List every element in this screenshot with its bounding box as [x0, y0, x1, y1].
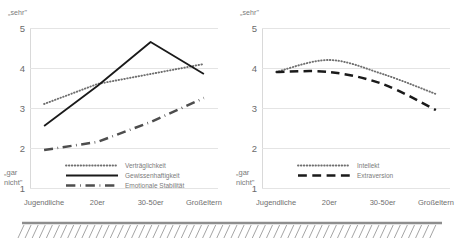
- y-axis-bottom-anchor-line1: „gar: [4, 168, 17, 177]
- hatch-tick: [46, 225, 52, 238]
- hatch-tick: [103, 225, 109, 238]
- y-axis-tick-label: 5: [20, 23, 25, 34]
- hatch-tick: [146, 225, 152, 238]
- hatch-tick: [82, 225, 88, 238]
- y-axis-tick-label: 3: [252, 103, 257, 114]
- hatch-tick: [238, 225, 244, 238]
- hatch-tick: [252, 225, 258, 238]
- legend-item[interactable]: Extraversion: [298, 171, 393, 180]
- hatch-tick: [68, 225, 74, 238]
- hatch-tick: [231, 225, 237, 238]
- x-axis-tick-label: Großeltern: [186, 198, 222, 207]
- x-axis-tick-label: 20er: [90, 198, 105, 207]
- hatch-tick: [409, 225, 415, 238]
- hatch-tick: [18, 225, 24, 238]
- hatch-tick: [259, 225, 265, 238]
- legend-swatch-dashdot-icon: [66, 181, 118, 190]
- x-axis-labels-right: Jugendliche20er30-50erGroßeltern: [262, 198, 450, 210]
- series-line: [44, 42, 204, 126]
- hatch-tick: [160, 225, 166, 238]
- hatch-tick: [423, 225, 429, 238]
- hatch-tick: [61, 225, 67, 238]
- y-axis-tick-label: 1: [20, 183, 25, 194]
- y-axis-tick-label: 4: [252, 63, 257, 74]
- hatch-tick: [110, 225, 116, 238]
- hatch-tick: [316, 225, 322, 238]
- series-line: [44, 64, 204, 104]
- y-axis-tick-label: 4: [20, 63, 25, 74]
- series-line: [276, 60, 436, 94]
- hatch-tick: [181, 225, 187, 238]
- hatch-tick: [373, 225, 379, 238]
- y-axis-tick-label: 1: [252, 183, 257, 194]
- y-axis-tick-label: 3: [20, 103, 25, 114]
- hatch-tick: [125, 225, 131, 238]
- hatch-tick: [89, 225, 95, 238]
- hatch-tick: [430, 225, 436, 238]
- chart-panel-left: „sehr" „gar nicht" 54321 Jugendliche20er…: [0, 0, 231, 249]
- hatch-tick: [96, 225, 102, 238]
- hatch-tick: [25, 225, 31, 238]
- legend-item[interactable]: Emotionale Stabilität: [66, 181, 184, 190]
- y-axis-top-anchor-label: „sehr": [8, 9, 27, 16]
- chart-panel-right: „sehr" „gar nicht" 54321 Jugendliche20er…: [232, 0, 463, 249]
- series-line: [276, 71, 436, 110]
- gridline: [262, 188, 450, 189]
- series-line: [44, 98, 204, 150]
- ground-hatch-decoration: [0, 216, 463, 249]
- x-axis-tick-label: Jugendliche: [256, 198, 296, 207]
- hatch-tick: [394, 225, 400, 238]
- hatch-tick: [387, 225, 393, 238]
- legend-swatch-dotted-icon: [66, 161, 118, 170]
- chart-page: „sehr" „gar nicht" 54321 Jugendliche20er…: [0, 0, 463, 249]
- legend-item[interactable]: Gewissenhaftigkeit: [66, 171, 184, 180]
- hatch-tick: [345, 225, 351, 238]
- hatch-tick: [217, 225, 223, 238]
- hatch-tick: [309, 225, 315, 238]
- legend-swatch-solid-icon: [66, 171, 118, 180]
- hatch-tick: [117, 225, 123, 238]
- hatch-tick: [267, 225, 273, 238]
- y-axis-tick-label: 2: [252, 143, 257, 154]
- hatch-tick: [196, 225, 202, 238]
- hatch-tick: [203, 225, 209, 238]
- x-axis-tick-label: Jugendliche: [24, 198, 64, 207]
- hatch-tick: [153, 225, 159, 238]
- y-axis-top-anchor-label: „sehr": [240, 9, 259, 16]
- hatch-tick: [54, 225, 60, 238]
- hatch-tick: [295, 225, 301, 238]
- y-axis-tick-label: 2: [20, 143, 25, 154]
- legend-label: Intellekt: [357, 162, 379, 169]
- legend-label: Verträglichkeit: [125, 162, 166, 169]
- ground-hatch-svg: [0, 216, 463, 249]
- legend-label: Extraversion: [357, 172, 393, 179]
- x-axis-tick-label: 30-50er: [370, 198, 396, 207]
- hatch-tick: [323, 225, 329, 238]
- hatch-tick: [224, 225, 230, 238]
- hatch-tick: [139, 225, 145, 238]
- hatch-tick: [359, 225, 365, 238]
- hatch-tick: [281, 225, 287, 238]
- legend-swatch-dotted-icon: [298, 161, 350, 170]
- legend-item[interactable]: Verträglichkeit: [66, 161, 184, 170]
- legend-left: VerträglichkeitGewissenhaftigkeitEmotion…: [66, 161, 184, 191]
- hatch-tick: [366, 225, 372, 238]
- legend-label: Gewissenhaftigkeit: [125, 172, 180, 179]
- y-axis-bottom-anchor-line1: „gar: [236, 168, 249, 177]
- legend-swatch-dashed-icon: [298, 171, 350, 180]
- hatch-tick: [132, 225, 138, 238]
- hatch-tick: [75, 225, 81, 238]
- x-axis-tick-label: 20er: [322, 198, 337, 207]
- hatch-tick: [288, 225, 294, 238]
- hatch-tick: [245, 225, 251, 238]
- hatch-tick: [338, 225, 344, 238]
- hatch-tick: [174, 225, 180, 238]
- hatch-tick: [274, 225, 280, 238]
- x-axis-tick-label: 30-50er: [138, 198, 164, 207]
- x-axis-labels-left: Jugendliche20er30-50erGroßeltern: [30, 198, 218, 210]
- legend-item[interactable]: Intellekt: [298, 161, 393, 170]
- hatch-tick: [32, 225, 38, 238]
- hatch-tick: [330, 225, 336, 238]
- hatch-tick: [188, 225, 194, 238]
- hatch-tick: [39, 225, 45, 238]
